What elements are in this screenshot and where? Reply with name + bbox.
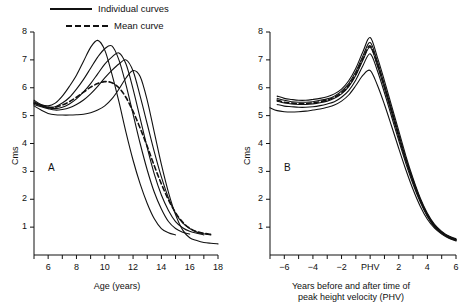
x-tick-label: 6	[443, 263, 468, 272]
x-tick-label: 6	[35, 263, 61, 272]
x-tick-label: 18	[205, 263, 231, 272]
x-tick-label: 8	[63, 263, 89, 272]
x-tick-label: 16	[177, 263, 203, 272]
x-tick-label: 14	[148, 263, 174, 272]
y-tick-label: 2	[13, 194, 27, 203]
y-tick-label: 4	[13, 139, 27, 148]
individual-curve-line	[277, 38, 456, 239]
y-tick-label: 1	[249, 222, 263, 231]
individual-curve-line	[34, 60, 211, 235]
panel-a: Cms Age (years) A 12345678681012141618	[0, 0, 234, 300]
y-tick-label: 6	[249, 83, 263, 92]
x-tick-label: PHV	[357, 263, 383, 272]
y-tick-label: 3	[13, 166, 27, 175]
panel-b-letter: B	[284, 162, 291, 173]
panel-b-x-axis-title-line1: Years before and after time of	[234, 281, 468, 292]
mean-curve-line	[277, 46, 456, 240]
y-tick-label: 6	[13, 83, 27, 92]
y-tick-label: 4	[249, 139, 263, 148]
y-tick-label: 5	[13, 111, 27, 120]
y-tick-label: 5	[249, 111, 263, 120]
y-tick-label: 8	[13, 27, 27, 36]
x-tick-label: 2	[386, 263, 412, 272]
individual-curve-line	[277, 54, 456, 241]
panel-a-y-axis-title: Cms	[10, 147, 20, 166]
panel-a-x-axis-title: Age (years)	[0, 281, 234, 292]
panel-b: Cms Years before and after time of peak …	[234, 0, 468, 300]
individual-curve-line	[34, 53, 204, 235]
y-tick-label: 7	[13, 55, 27, 64]
individual-curve-line	[277, 47, 456, 240]
panel-b-x-axis-title-line2: peak height velocity (PHV)	[234, 292, 468, 303]
panel-b-y-axis-title: Cms	[242, 147, 252, 166]
panel-a-letter: A	[48, 162, 55, 173]
panel-b-plot	[234, 0, 468, 300]
y-tick-label: 2	[249, 194, 263, 203]
x-tick-label: −6	[271, 263, 297, 272]
y-tick-label: 1	[13, 222, 27, 231]
panel-a-plot	[0, 0, 234, 300]
y-tick-label: 8	[249, 27, 263, 36]
individual-curve-line	[34, 40, 176, 235]
x-tick-label: 10	[92, 263, 118, 272]
y-tick-label: 3	[249, 166, 263, 175]
x-tick-label: 12	[120, 263, 146, 272]
y-tick-label: 7	[249, 55, 263, 64]
x-tick-label: −2	[329, 263, 355, 272]
x-tick-label: 4	[414, 263, 440, 272]
x-tick-label: −4	[300, 263, 326, 272]
